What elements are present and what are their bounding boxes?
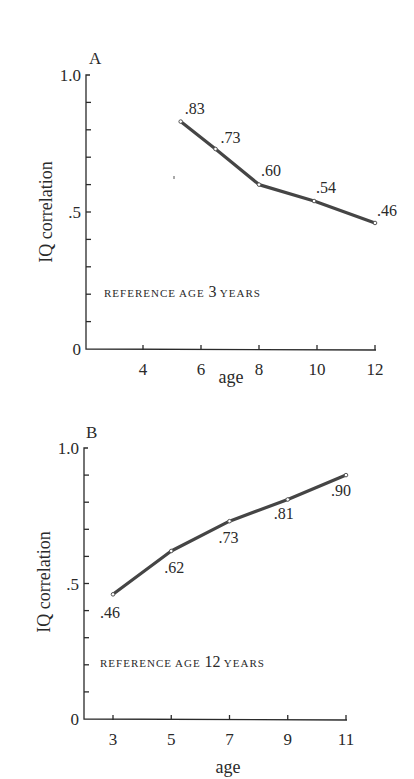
y-axis-title-b: IQ correlation bbox=[34, 531, 54, 632]
data-point bbox=[169, 549, 173, 553]
y-axis-title-a: IQ correlation bbox=[36, 161, 56, 262]
data-label: .83 bbox=[185, 100, 205, 117]
y-tick-label: 1.0 bbox=[58, 439, 79, 458]
series-a: .83.73.60.54.46 bbox=[179, 100, 397, 225]
reference-label-b: REFERENCE AGE 12 YEARS bbox=[100, 653, 265, 670]
reference-text: REFERENCE AGE 3 YEARS bbox=[104, 283, 261, 300]
x-tick-label: 12 bbox=[367, 360, 384, 379]
data-label: .62 bbox=[164, 559, 184, 576]
data-label: .81 bbox=[274, 505, 294, 522]
x-tick-label: 11 bbox=[338, 730, 354, 749]
chart-panel-a: A 0.51.04681012 IQ correlation age REFER… bbox=[36, 49, 397, 387]
x-axis-title-b: age bbox=[216, 757, 241, 777]
data-point bbox=[312, 199, 316, 203]
data-label: .60 bbox=[261, 162, 281, 179]
data-point bbox=[111, 593, 115, 597]
axes-b: 0.51.0357911 bbox=[58, 439, 354, 749]
x-tick-label: 3 bbox=[109, 730, 118, 749]
data-point bbox=[228, 519, 232, 523]
data-label: .54 bbox=[316, 179, 336, 196]
x-tick-label: 9 bbox=[284, 730, 293, 749]
data-label: .73 bbox=[221, 129, 241, 146]
x-tick-label: 7 bbox=[225, 730, 234, 749]
chart-panel-b: B 0.51.0357911 IQ correlation age REFERE… bbox=[34, 423, 354, 777]
reference-label-a: REFERENCE AGE 3 YEARS bbox=[104, 283, 261, 300]
x-tick-label: 4 bbox=[139, 360, 148, 379]
y-tick-label: .5 bbox=[66, 575, 79, 594]
panel-letter-a: A bbox=[89, 49, 102, 68]
y-tick-label: .5 bbox=[68, 203, 81, 222]
x-axis-title-a: age bbox=[219, 367, 244, 387]
data-point bbox=[257, 183, 261, 187]
x-tick-label: 5 bbox=[167, 730, 176, 749]
data-label: .46 bbox=[100, 604, 120, 621]
data-point bbox=[344, 473, 348, 477]
data-point bbox=[373, 221, 377, 225]
data-label: .46 bbox=[377, 202, 397, 219]
panel-letter-b: B bbox=[86, 423, 97, 442]
y-tick-label: 1.0 bbox=[60, 66, 81, 85]
axis-lines bbox=[84, 448, 347, 720]
x-tick-label: 6 bbox=[197, 360, 206, 379]
axis-lines bbox=[86, 75, 376, 350]
figure: A 0.51.04681012 IQ correlation age REFER… bbox=[0, 0, 414, 779]
x-tick-label: 10 bbox=[309, 360, 326, 379]
data-point bbox=[214, 147, 218, 151]
x-tick-label: 8 bbox=[255, 360, 264, 379]
axes-a: 0.51.04681012 bbox=[60, 66, 384, 379]
data-label: .73 bbox=[219, 529, 239, 546]
data-point bbox=[286, 498, 290, 502]
data-label: .90 bbox=[331, 482, 351, 499]
y-tick-label: 0 bbox=[71, 710, 80, 729]
series-b: .46.62.73.81.90 bbox=[100, 473, 351, 621]
data-point bbox=[179, 120, 183, 124]
y-tick-label: 0 bbox=[73, 340, 82, 359]
reference-text: REFERENCE AGE 12 YEARS bbox=[100, 653, 265, 670]
